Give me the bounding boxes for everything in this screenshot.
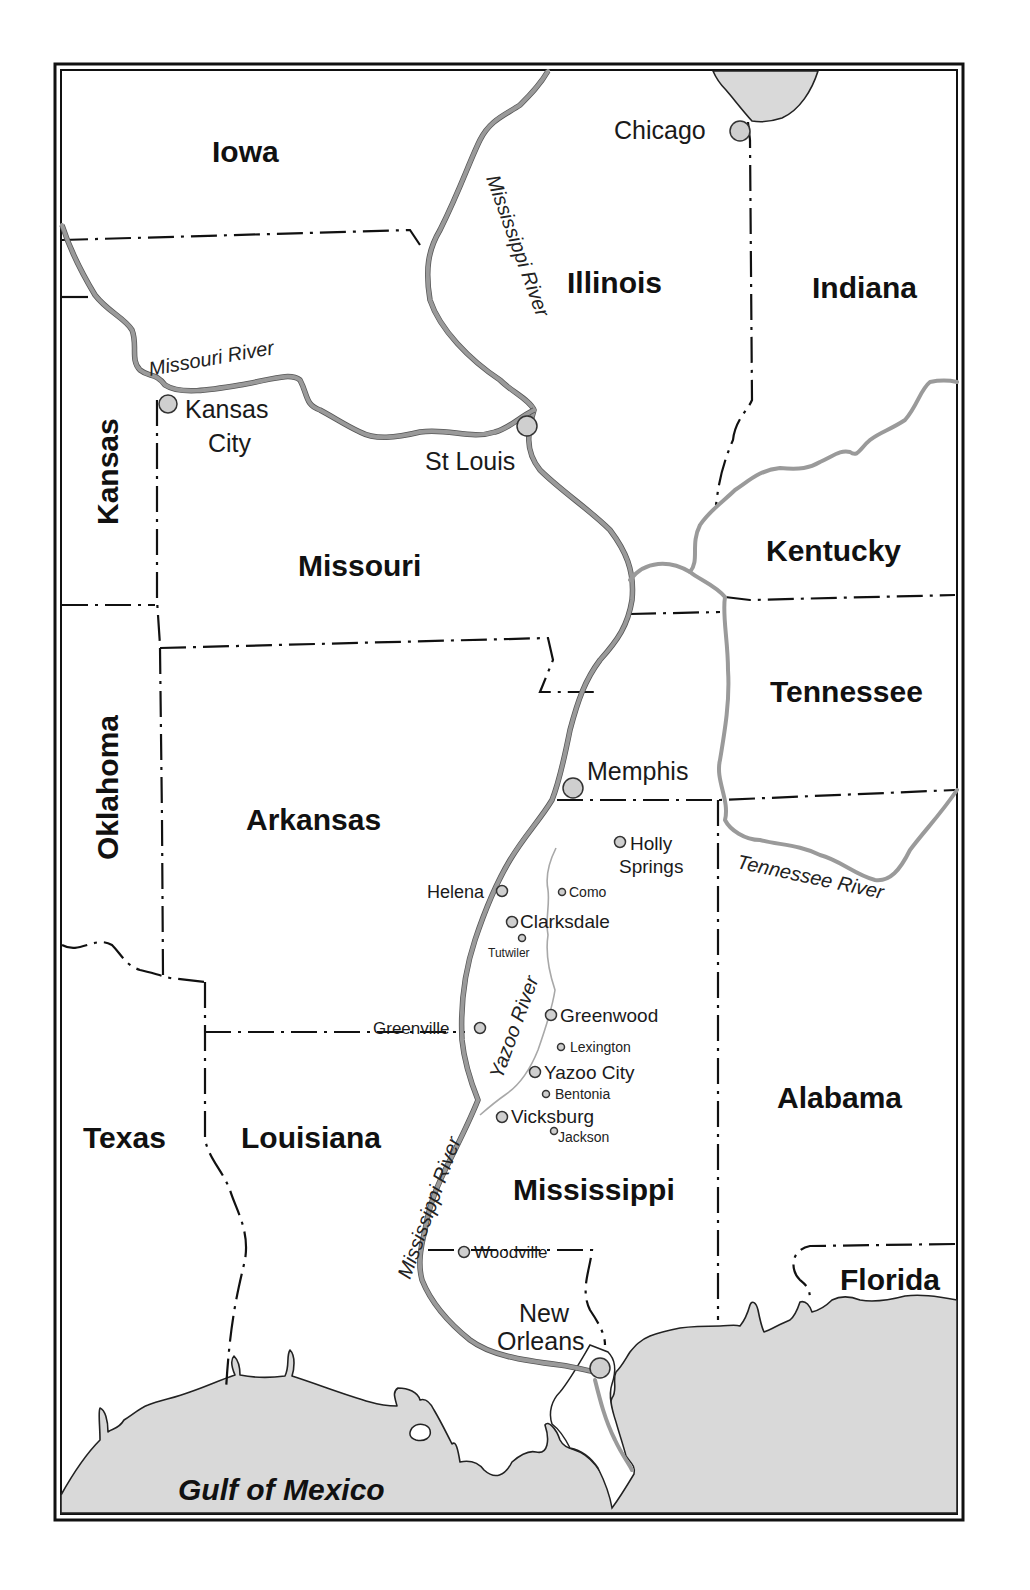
- city-marker-st-louis: [517, 416, 537, 436]
- town-label-helena: Helena: [427, 882, 485, 902]
- town-label-yazoo-city: Yazoo City: [544, 1062, 635, 1083]
- city-label-new-orleans-1: New: [519, 1299, 570, 1327]
- state-label-missouri: Missouri: [298, 549, 421, 582]
- town-marker-helena: [497, 886, 508, 897]
- town-label-jackson: Jackson: [558, 1129, 609, 1145]
- city-label-st-louis: St Louis: [425, 447, 515, 475]
- state-label-illinois: Illinois: [567, 266, 662, 299]
- town-label-vicksburg: Vicksburg: [511, 1106, 594, 1127]
- city-marker-memphis: [563, 778, 583, 798]
- state-label-oklahoma: Oklahoma: [91, 715, 124, 860]
- state-label-iowa: Iowa: [212, 135, 279, 168]
- state-label-indiana: Indiana: [812, 271, 917, 304]
- state-label-mississippi: Mississippi: [513, 1173, 675, 1206]
- state-label-kansas: Kansas: [91, 418, 124, 525]
- town-marker-tutwiler: [519, 935, 526, 942]
- state-label-kentucky: Kentucky: [766, 534, 901, 567]
- gulf-of-mexico-label: Gulf of Mexico: [178, 1473, 385, 1506]
- town-marker-vicksburg: [497, 1112, 508, 1123]
- town-label-bentonia: Bentonia: [555, 1086, 610, 1102]
- state-label-texas: Texas: [83, 1121, 166, 1154]
- town-marker-clarksdale: [507, 917, 518, 928]
- town-marker-woodville: [459, 1247, 470, 1258]
- city-label-chicago: Chicago: [614, 116, 706, 144]
- city-marker-chicago: [730, 121, 750, 141]
- state-label-arkansas: Arkansas: [246, 803, 381, 836]
- town-label-lexington: Lexington: [570, 1039, 631, 1055]
- town-label-woodville: Woodville: [474, 1243, 547, 1262]
- town-label-greenwood: Greenwood: [560, 1005, 658, 1026]
- city-label-memphis: Memphis: [587, 757, 688, 785]
- city-marker-new-orleans: [590, 1358, 610, 1378]
- city-label-new-orleans-2: Orleans: [497, 1327, 585, 1355]
- town-marker-greenwood: [546, 1010, 557, 1021]
- town-marker-bentonia: [543, 1091, 550, 1098]
- city-label-kansas-city-1: Kansas: [185, 395, 268, 423]
- town-marker-greenville: [475, 1023, 486, 1034]
- town-marker-jackson: [551, 1128, 558, 1135]
- town-marker-holly-springs: [615, 837, 626, 848]
- town-marker-yazoo-city: [530, 1067, 541, 1078]
- state-label-florida: Florida: [840, 1263, 940, 1296]
- town-label-clarksdale: Clarksdale: [520, 911, 610, 932]
- town-label-como: Como: [569, 884, 607, 900]
- city-marker-kansas-city: [159, 395, 177, 413]
- town-label-holly-springs-1: Holly: [630, 833, 673, 854]
- city-label-kansas-city-2: City: [208, 429, 252, 457]
- town-label-greenville: Greenville: [373, 1019, 450, 1038]
- town-label-holly-springs-2: Springs: [619, 856, 683, 877]
- state-label-louisiana: Louisiana: [241, 1121, 381, 1154]
- state-label-tennessee: Tennessee: [770, 675, 923, 708]
- town-label-tutwiler: Tutwiler: [488, 946, 530, 960]
- town-marker-como: [559, 889, 566, 896]
- state-label-alabama: Alabama: [777, 1081, 902, 1114]
- island: [410, 1424, 430, 1440]
- town-marker-lexington: [558, 1044, 565, 1051]
- mississippi-delta-map: Iowa Illinois Indiana Kansas Missouri Ke…: [0, 0, 1030, 1590]
